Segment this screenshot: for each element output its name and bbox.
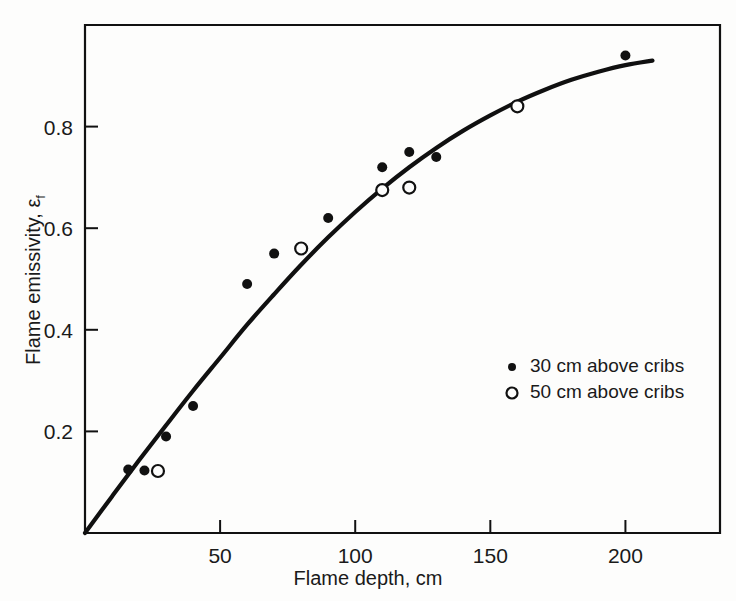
- series-50cm-points: [152, 100, 523, 477]
- data-point: [295, 243, 307, 255]
- series-30cm-points: [123, 50, 630, 475]
- x-tick-label-150: 150: [473, 544, 508, 567]
- y-tick-label-0.6: 0.6: [44, 217, 73, 240]
- data-point: [152, 465, 164, 477]
- data-point: [139, 466, 149, 476]
- fitted-curve: [85, 61, 652, 533]
- data-point: [377, 162, 387, 172]
- data-point: [188, 401, 198, 411]
- x-axis-tick-labels: 50100150200: [208, 544, 643, 567]
- legend-marker-open-circle: [507, 388, 518, 399]
- data-point: [161, 431, 171, 441]
- data-point: [376, 184, 388, 196]
- data-point: [403, 182, 415, 194]
- figure-container: 50100150200 0.20.40.60.8 Flame depth, cm…: [0, 0, 736, 601]
- x-tick-label-200: 200: [608, 544, 643, 567]
- data-point: [620, 50, 630, 60]
- legend-label: 30 cm above cribs: [530, 355, 684, 376]
- data-point: [431, 152, 441, 162]
- y-tick-label-0.2: 0.2: [44, 420, 73, 443]
- plot-frame: [85, 25, 720, 533]
- data-point: [404, 147, 414, 157]
- y-axis-ticks: [85, 127, 98, 432]
- data-point: [242, 279, 252, 289]
- flame-emissivity-chart: 50100150200 0.20.40.60.8 Flame depth, cm…: [0, 0, 736, 601]
- data-point: [511, 100, 523, 112]
- x-tick-label-100: 100: [338, 544, 373, 567]
- x-axis-ticks: [220, 520, 625, 533]
- x-axis-title: Flame depth, cm: [294, 567, 443, 589]
- x-tick-label-50: 50: [208, 544, 231, 567]
- legend: 30 cm above cribs50 cm above cribs: [507, 355, 685, 402]
- data-point: [269, 249, 279, 259]
- y-axis-title-main: Flame emissivity, ε: [22, 199, 44, 365]
- y-axis-title-subscript: f: [33, 195, 48, 199]
- legend-marker-filled-circle: [508, 363, 516, 371]
- axes-box: [85, 25, 720, 533]
- data-point: [323, 213, 333, 223]
- fit-curve-group: [85, 61, 652, 533]
- y-axis-tick-labels: 0.20.40.60.8: [44, 116, 74, 444]
- data-point: [123, 465, 133, 475]
- legend-label: 50 cm above cribs: [530, 381, 684, 402]
- y-tick-label-0.4: 0.4: [44, 319, 74, 342]
- y-tick-label-0.8: 0.8: [44, 116, 73, 139]
- x-axis-title-group: Flame depth, cm: [294, 567, 443, 589]
